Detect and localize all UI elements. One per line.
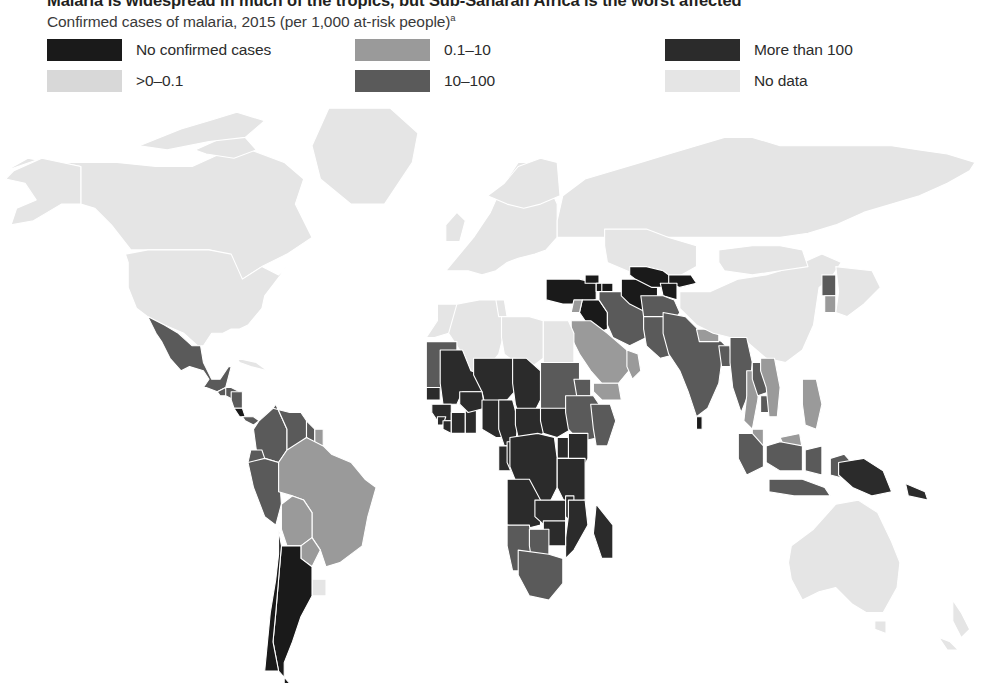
map-country[interactable] xyxy=(825,296,836,313)
legend-swatch xyxy=(665,39,740,61)
map-country[interactable] xyxy=(953,600,970,638)
map-country[interactable] xyxy=(6,158,81,225)
legend-swatch xyxy=(355,70,430,92)
map-country[interactable] xyxy=(836,267,881,317)
map-country[interactable] xyxy=(766,442,802,471)
map-country[interactable] xyxy=(488,158,560,208)
page-title: Malaria is widespread in much of the tro… xyxy=(47,0,987,9)
map-country[interactable] xyxy=(446,212,466,241)
legend-label: No data xyxy=(754,68,808,94)
map-country[interactable] xyxy=(802,379,822,429)
map-country[interactable] xyxy=(591,404,616,446)
map-country[interactable] xyxy=(451,413,465,434)
map-country[interactable] xyxy=(557,137,975,237)
legend-swatch xyxy=(47,39,122,61)
map-country[interactable] xyxy=(231,392,242,409)
figure-header: Malaria is widespread in much of the tro… xyxy=(0,0,1003,108)
legend-label: 0.1–10 xyxy=(444,37,491,63)
map-country[interactable] xyxy=(875,621,886,634)
map-country[interactable] xyxy=(697,417,703,430)
map-country[interactable] xyxy=(593,383,621,400)
legend-swatch xyxy=(47,70,122,92)
map-country[interactable] xyxy=(312,579,326,596)
legend-swatch xyxy=(355,39,430,61)
map-country[interactable] xyxy=(312,108,418,204)
world-choropleth-map[interactable] xyxy=(0,104,1003,696)
map-country[interactable] xyxy=(789,500,900,612)
map-country[interactable] xyxy=(906,483,928,500)
map-country-layer xyxy=(6,108,976,683)
map-country[interactable] xyxy=(627,350,641,379)
map-country[interactable] xyxy=(585,275,599,283)
legend-label: >0–0.1 xyxy=(136,68,183,94)
map-country[interactable] xyxy=(426,388,440,401)
legend-swatch xyxy=(665,70,740,92)
map-country[interactable] xyxy=(518,550,563,600)
map-country[interactable] xyxy=(769,479,830,496)
footnote-marker: a xyxy=(450,12,455,23)
map-country[interactable] xyxy=(839,458,892,496)
figure-subtitle-text: Confirmed cases of malaria, 2015 (per 1,… xyxy=(47,13,450,30)
map-country[interactable] xyxy=(939,638,959,651)
map-country[interactable] xyxy=(460,392,485,413)
map-country[interactable] xyxy=(237,358,268,371)
map-legend: No confirmed cases >0–0.1 0.1–10 10–100 … xyxy=(0,38,1003,102)
map-canvas xyxy=(0,104,1003,696)
map-country[interactable] xyxy=(543,321,574,363)
map-country[interactable] xyxy=(234,408,245,416)
legend-label: No confirmed cases xyxy=(136,37,271,63)
map-country[interactable] xyxy=(805,446,822,475)
map-country[interactable] xyxy=(593,504,613,558)
map-country[interactable] xyxy=(566,500,588,558)
map-country[interactable] xyxy=(557,438,568,459)
legend-label: 10–100 xyxy=(444,68,495,94)
map-country[interactable] xyxy=(822,275,836,296)
map-country[interactable] xyxy=(248,458,281,525)
figure-subtitle: Confirmed cases of malaria, 2015 (per 1,… xyxy=(47,12,456,32)
map-country[interactable] xyxy=(574,379,591,396)
legend-label: More than 100 xyxy=(754,37,853,63)
map-country[interactable] xyxy=(443,421,451,434)
